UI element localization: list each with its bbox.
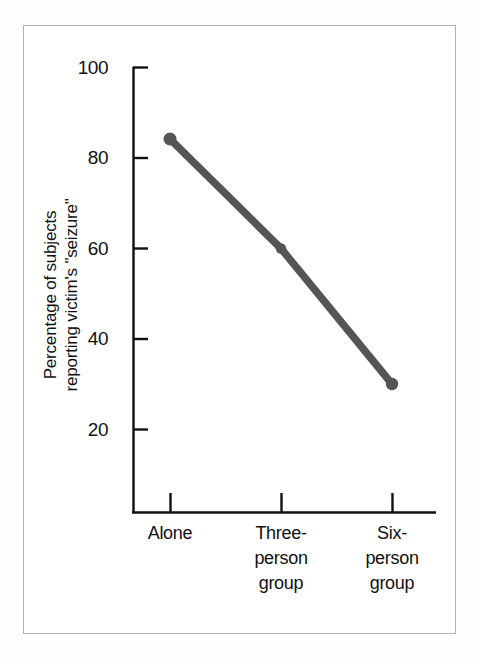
x-tick-label-three-person-line-1: Three-: [226, 521, 336, 546]
x-tick-label-six-person: Six- person group: [337, 521, 447, 596]
x-tick-label-six-person-line-3: group: [337, 571, 447, 596]
x-tick-label-three-person-line-2: person: [226, 546, 336, 571]
data-line-series-1: [170, 139, 392, 384]
x-tick-label-three-person: Three- person group: [226, 521, 336, 596]
x-tick-label-alone: Alone: [115, 521, 225, 546]
data-point-alone: [164, 133, 177, 146]
data-point-three-person: [276, 243, 286, 253]
data-point-six-person: [386, 378, 398, 390]
x-tick-label-three-person-line-3: group: [226, 571, 336, 596]
x-tick-label-six-person-line-2: person: [337, 546, 447, 571]
x-tick-label-six-person-line-1: Six-: [337, 521, 447, 546]
figure-root: Percentage of subjects reporting victim'…: [0, 0, 481, 661]
x-tick-label-alone-line-1: Alone: [115, 521, 225, 546]
